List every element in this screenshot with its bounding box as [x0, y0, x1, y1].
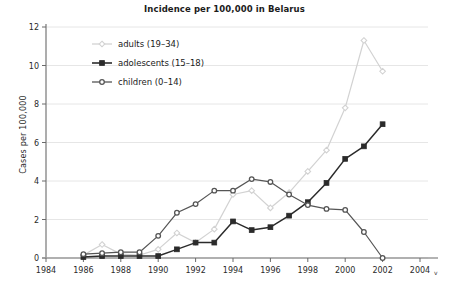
y-tick-label: 12: [29, 23, 39, 32]
series-marker: [193, 202, 198, 207]
series-marker: [249, 228, 254, 233]
series-marker: [175, 210, 180, 215]
x-tick-label: 1992: [185, 266, 205, 275]
series-marker: [212, 240, 217, 245]
y-tick-label: 0: [34, 254, 39, 263]
series-marker: [175, 247, 180, 252]
series-marker: [361, 38, 367, 44]
series-marker: [156, 254, 161, 259]
x-tick-label: 2004: [410, 266, 430, 275]
series-marker: [119, 250, 124, 255]
series-marker: [362, 230, 367, 235]
x-tick-label: 1988: [111, 266, 131, 275]
series-marker: [380, 68, 386, 74]
y-tick-label: 6: [34, 139, 39, 148]
series-marker: [362, 144, 367, 149]
y-tick-label: 10: [29, 62, 39, 71]
x-tick-label: 1984: [36, 266, 56, 275]
chart-legend: adults (19–34)adolescents (15–18)childre…: [92, 39, 204, 87]
legend-marker: [99, 41, 105, 47]
plot-area: 024681012 198419861988199019921994199619…: [0, 0, 449, 281]
series-marker: [249, 177, 254, 182]
series-marker: [343, 208, 348, 213]
x-tick-label: 1986: [73, 266, 93, 275]
x-tick-label: 1990: [148, 266, 168, 275]
series-marker: [343, 156, 348, 161]
x-tick-label: 2002: [372, 266, 392, 275]
x-tick-label: 1998: [298, 266, 318, 275]
series-marker: [137, 250, 142, 255]
data-series-group: [81, 38, 386, 261]
x-tick-label: 2000: [335, 266, 355, 275]
legend-item-label: children (0–14): [118, 77, 182, 87]
x-tick-label: 1996: [260, 266, 280, 275]
x-tick-label: 1994: [223, 266, 243, 275]
legend-marker: [100, 80, 105, 85]
series-marker: [212, 188, 217, 193]
series-marker: [324, 181, 329, 186]
legend-item[interactable]: adolescents (15–18): [92, 58, 204, 68]
series-marker: [99, 242, 105, 248]
legend-item-label: adolescents (15–18): [118, 58, 204, 68]
series-marker: [306, 203, 311, 208]
series-marker: [287, 213, 292, 218]
series-marker: [268, 180, 273, 185]
legend-item[interactable]: children (0–14): [92, 77, 182, 87]
series-marker: [100, 251, 105, 256]
x-axis: 1984198619881990199219941996199820002002…: [36, 258, 438, 276]
y-axis: 024681012: [29, 23, 46, 263]
series-marker: [231, 188, 236, 193]
series-marker: [287, 192, 292, 197]
legend-item-label: adults (19–34): [118, 39, 179, 49]
y-tick-label: 4: [34, 177, 39, 186]
series-marker: [231, 219, 236, 224]
series-marker: [380, 256, 385, 261]
series-marker: [380, 122, 385, 127]
y-tick-label: 2: [34, 216, 39, 225]
legend-marker: [100, 61, 105, 66]
chart-container: Incidence per 100,000 in Belarus Cases p…: [0, 0, 449, 281]
series-marker: [156, 234, 161, 239]
x-axis-suffix: v: [434, 269, 438, 276]
series-marker: [342, 105, 348, 111]
series-marker: [268, 225, 273, 230]
y-tick-label: 8: [34, 100, 39, 109]
series-marker: [81, 252, 86, 257]
series-marker: [193, 240, 198, 245]
series-adults: [81, 38, 386, 258]
series-children: [81, 177, 385, 261]
series-marker: [324, 207, 329, 212]
legend-item[interactable]: adults (19–34): [92, 39, 179, 49]
